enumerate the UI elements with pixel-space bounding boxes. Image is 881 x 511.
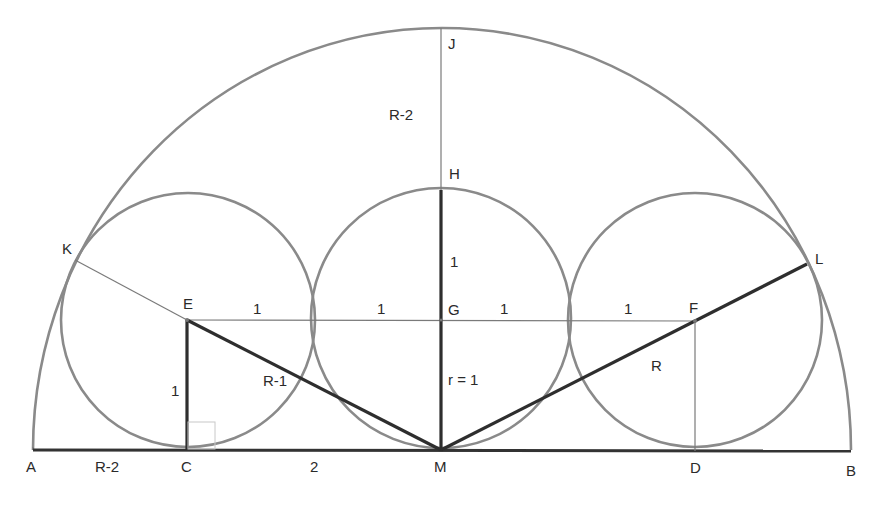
geometry-diagram	[0, 0, 881, 511]
label-point-E: E	[183, 296, 193, 311]
label-point-F: F	[689, 300, 698, 315]
label-EG-left: 1	[253, 301, 261, 316]
label-EM: R-1	[263, 373, 287, 388]
label-HJ: R-2	[389, 107, 413, 122]
label-point-L: L	[815, 251, 823, 266]
label-GF-left: 1	[500, 301, 508, 316]
label-point-C: C	[181, 459, 192, 474]
point-E-dot	[185, 318, 189, 322]
label-FM: R	[651, 358, 662, 373]
point-G-dot	[439, 318, 442, 321]
label-point-K: K	[62, 241, 72, 256]
label-point-M: M	[434, 459, 447, 474]
label-EG-right: 1	[377, 301, 385, 316]
label-CM: 2	[310, 459, 318, 474]
label-EC: 1	[171, 383, 179, 398]
label-point-B: B	[846, 463, 856, 478]
label-GH: 1	[450, 254, 458, 269]
label-GF-right: 1	[624, 301, 632, 316]
label-GM: r = 1	[448, 372, 478, 387]
label-point-G: G	[448, 302, 460, 317]
label-point-H: H	[449, 166, 460, 181]
segment-ML	[441, 264, 807, 450]
label-point-A: A	[26, 459, 36, 474]
label-point-J: J	[448, 36, 456, 51]
segment-KE	[75, 260, 187, 320]
point-F-dot	[693, 319, 697, 323]
label-AC: R-2	[95, 459, 119, 474]
label-point-D: D	[690, 460, 701, 475]
